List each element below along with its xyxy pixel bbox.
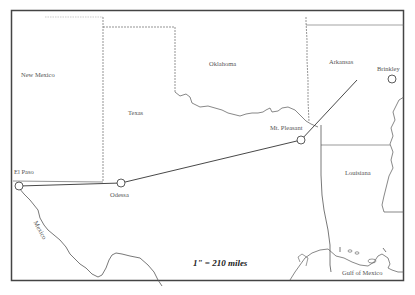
island: [348, 250, 352, 252]
state-label-new-mexico: New Mexico: [21, 72, 55, 79]
city-label-brinkley: Brinkley: [377, 66, 400, 73]
island: [383, 248, 386, 252]
city-marker-brinkley[interactable]: [388, 75, 396, 83]
city-marker-mt-pleasant[interactable]: [297, 136, 305, 144]
galveston-bay: [298, 254, 308, 266]
scale-label: 1" = 210 miles: [193, 258, 247, 268]
mississippi-river: [382, 97, 404, 212]
city-label-mt-pleasant: Mt. Pleasant: [270, 125, 303, 132]
island: [355, 252, 359, 254]
city-label-odessa: Odessa: [110, 192, 129, 199]
map: New Mexico Texas Oklahoma Arkansas Louis…: [0, 0, 415, 295]
red-river: [175, 92, 318, 127]
state-label-arkansas: Arkansas: [329, 59, 353, 66]
ok-ar-border: [306, 17, 309, 122]
state-label-texas: Texas: [128, 110, 143, 117]
city-marker-el-paso[interactable]: [15, 182, 23, 190]
nm-south-border: [13, 181, 103, 182]
map-canvas: [0, 0, 415, 295]
water-label-gulf-of-mexico: Gulf of Mexico: [342, 270, 382, 277]
state-label-oklahoma: Oklahoma: [209, 61, 236, 68]
city-marker-odessa[interactable]: [117, 179, 125, 187]
state-label-louisiana: Louisiana: [345, 170, 371, 177]
map-frame: [12, 11, 404, 281]
city-label-el-paso: El Paso: [14, 169, 34, 176]
